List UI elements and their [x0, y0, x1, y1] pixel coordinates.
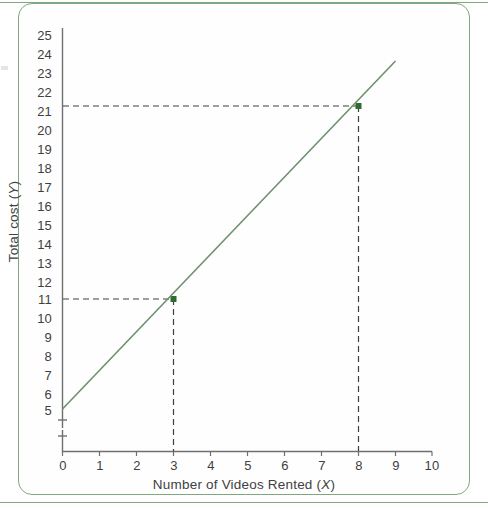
y-tick-label-19: 19 [30, 142, 52, 157]
y-tick-label-21: 21 [30, 104, 52, 119]
x-tick-label-0: 0 [52, 458, 74, 473]
x-tick-label-5: 5 [237, 458, 259, 473]
y-tick-label-5: 5 [30, 403, 52, 418]
chart-svg [0, 0, 488, 510]
y-axis-break-symbol [58, 414, 67, 452]
y-axis-title-suffix: ) [6, 181, 21, 186]
y-tick-label-16: 16 [30, 199, 52, 214]
y-tick-label-25: 25 [30, 28, 52, 43]
y-tick-label-17: 17 [30, 180, 52, 195]
guide-marker-3-11 [171, 296, 177, 302]
y-tick-label-13: 13 [30, 256, 52, 271]
y-tick-label-10: 10 [30, 311, 52, 326]
guide-lines-3-11 [63, 299, 174, 451]
y-tick-label-8: 8 [30, 349, 52, 364]
y-tick-label-20: 20 [30, 123, 52, 138]
y-tick-label-12: 12 [30, 275, 52, 290]
x-axis-title: Number of Videos Rented (X) [0, 477, 488, 492]
x-axis-title-suffix: ) [330, 477, 335, 492]
x-tick-label-2: 2 [126, 458, 148, 473]
x-tick-label-3: 3 [163, 458, 185, 473]
y-tick-label-6: 6 [30, 387, 52, 402]
y-tick-label-7: 7 [30, 368, 52, 383]
x-tick-label-6: 6 [274, 458, 296, 473]
y-tick-label-22: 22 [30, 85, 52, 100]
x-tick-label-7: 7 [311, 458, 333, 473]
x-tick-label-4: 4 [200, 458, 222, 473]
guide-lines-8-21 [63, 106, 359, 451]
y-tick-label-9: 9 [30, 330, 52, 345]
x-tick-label-1: 1 [89, 458, 111, 473]
y-axis-title-prefix: Total cost ( [6, 195, 21, 263]
x-tick-label-10: 10 [421, 458, 443, 473]
y-tick-label-11: 11 [30, 292, 52, 307]
plot-surface [0, 0, 488, 510]
y-tick-label-24: 24 [30, 47, 52, 62]
guide-marker-8-21 [356, 103, 362, 109]
x-tick-label-8: 8 [348, 458, 370, 473]
y-tick-label-18: 18 [30, 161, 52, 176]
y-tick-label-15: 15 [30, 218, 52, 233]
x-tick-label-9: 9 [385, 458, 407, 473]
x-axis-title-prefix: Number of Videos Rented ( [153, 477, 321, 492]
y-axis-title-variable: Y [6, 185, 21, 194]
y-axis-title: Total cost (Y) [6, 162, 21, 282]
series-line-total-cost [63, 61, 396, 409]
y-tick-label-14: 14 [30, 237, 52, 252]
y-tick-label-23: 23 [30, 66, 52, 81]
